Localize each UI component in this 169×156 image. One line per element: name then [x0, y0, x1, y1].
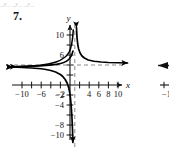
neighbor-figure-fragment	[158, 62, 169, 88]
graph-figure: x y −10−6−246810 106−2−4−8−10 −1	[0, 0, 169, 156]
x-tick-label: 4	[87, 89, 92, 99]
x-tick-label: −6	[37, 89, 46, 99]
branch-A2	[64, 62, 73, 74]
y-tick-label: −8	[55, 120, 64, 130]
x-axis-label: x	[125, 80, 130, 90]
y-tick-label: −4	[55, 100, 65, 110]
neighbor-tick-label: −1	[162, 89, 169, 99]
branch-left-lower	[16, 45, 73, 67]
x-tick-label: 8	[106, 89, 110, 99]
curve-left-branch	[12, 30, 73, 67]
x-tick-label: −10	[15, 89, 28, 99]
y-tick-label: 6	[60, 50, 64, 60]
y-tick-label: −10	[51, 130, 64, 140]
y-axis-label: y	[66, 13, 71, 23]
x-tick-label: 10	[114, 89, 123, 99]
curve	[12, 30, 73, 67]
y-tick-label: −2	[55, 90, 64, 100]
branch-right	[76, 28, 127, 64]
y-tick-label: 10	[56, 30, 65, 40]
x-tick-label: 6	[97, 89, 101, 99]
